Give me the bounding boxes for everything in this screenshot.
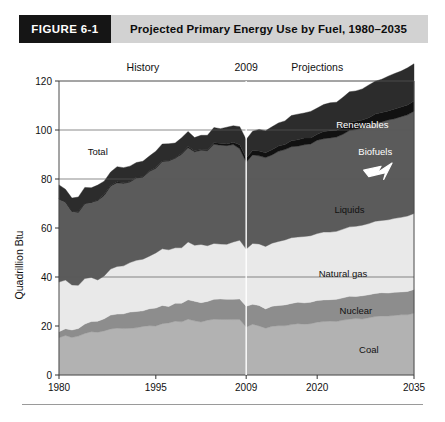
y-tick-label-20: 20: [41, 321, 53, 332]
divider-year-label: 2009: [235, 61, 259, 73]
history-label: History: [127, 61, 160, 73]
projections-label: Projections: [291, 61, 343, 73]
y-axis-title: Quadrillion Btu: [13, 230, 25, 299]
x-axis: 19801995200920202035: [48, 375, 426, 393]
y-tick-label-0: 0: [46, 370, 52, 381]
total-label: Total: [88, 146, 108, 157]
chart-bands: [59, 64, 414, 375]
natural-gas-label: Natural gas: [319, 268, 368, 279]
figure-header: FIGURE 6-1 Projected Primary Energy Use …: [19, 15, 428, 43]
y-tick-label-100: 100: [35, 125, 52, 136]
coal-label: Coal: [359, 344, 379, 355]
nuclear-label: Nuclear: [340, 305, 373, 316]
y-tick-label-60: 60: [41, 223, 53, 234]
biofuels-label: Biofuels: [358, 146, 392, 157]
figure-number-badge: FIGURE 6-1: [19, 15, 111, 43]
y-tick-label-40: 40: [41, 272, 53, 283]
chart-container: 020406080100120 19801995200920202035 Qua…: [0, 50, 445, 395]
y-tick-label-80: 80: [41, 174, 53, 185]
stacked-area-chart: 020406080100120 19801995200920202035 Qua…: [0, 50, 445, 395]
y-tick-label-120: 120: [35, 76, 52, 87]
y-axis: 020406080100120: [35, 76, 59, 381]
x-tick-label-1980: 1980: [48, 382, 71, 393]
renewables-label: Renewables: [336, 119, 389, 130]
figure-title: Projected Primary Energy Use by Fuel, 19…: [111, 15, 407, 43]
x-tick-label-2035: 2035: [403, 382, 426, 393]
x-tick-label-1995: 1995: [145, 382, 168, 393]
figure-bottom-rule: [22, 404, 423, 405]
x-tick-label-2009: 2009: [235, 382, 258, 393]
liquids-label: Liquids: [334, 204, 364, 215]
x-tick-label-2020: 2020: [306, 382, 329, 393]
